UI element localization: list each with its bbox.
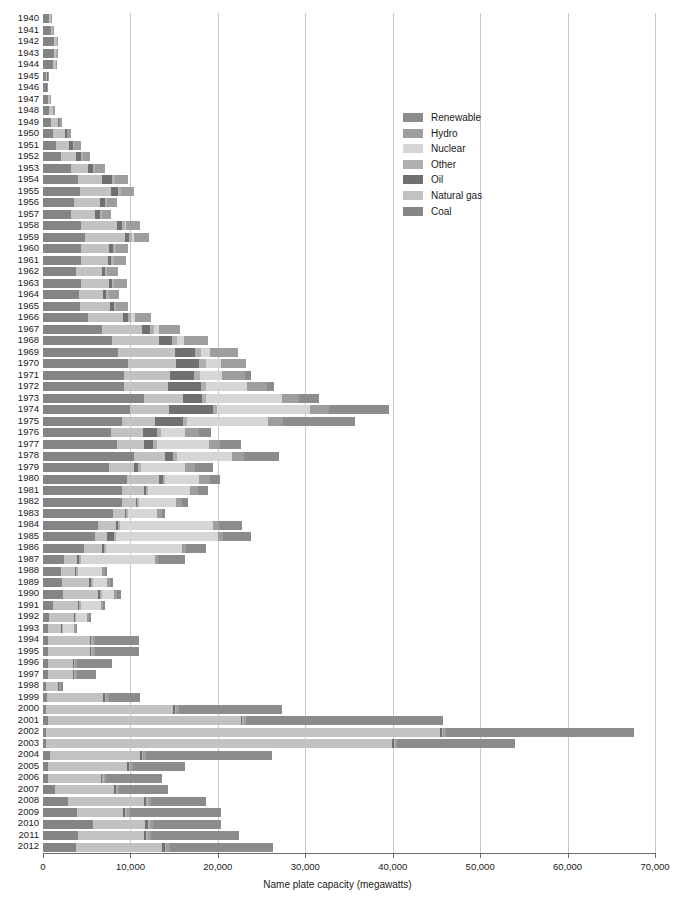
y-tick-label: 1949 <box>18 116 39 128</box>
bar-segment-natural-gas <box>111 428 142 437</box>
chart-row: 1958 <box>43 220 655 232</box>
bar-segment-oil <box>144 440 154 449</box>
bar-segment-oil <box>143 428 157 437</box>
stacked-bar <box>43 486 208 495</box>
bar-segment-oil <box>176 359 200 368</box>
x-tick-label: 30,000 <box>291 861 320 872</box>
stacked-bar <box>43 613 91 622</box>
bar-segment-nuclear <box>102 590 114 599</box>
y-tick-label: 1992 <box>18 610 39 622</box>
bar-segment-natural-gas <box>48 624 61 633</box>
chart-row: 1946 <box>43 82 655 94</box>
bar-segment-hydro <box>67 129 71 138</box>
bar-segment-coal <box>43 452 134 461</box>
bar-segment-nuclear <box>206 359 222 368</box>
chart-row: 1973 <box>43 393 655 405</box>
tick-mark-40000 <box>393 853 394 858</box>
y-tick-label: 2000 <box>18 702 39 714</box>
stacked-bar <box>43 313 151 322</box>
y-tick-label: 1959 <box>18 231 39 243</box>
bar-segment-natural-gas <box>77 808 122 817</box>
x-tick-label: 20,000 <box>203 861 232 872</box>
bar-segment-natural-gas <box>122 486 144 495</box>
chart-row: 2005 <box>43 761 655 773</box>
bar-segment-nuclear <box>206 382 246 391</box>
y-tick-label: 2001 <box>18 714 39 726</box>
bar-segment-coal <box>43 244 81 253</box>
stacked-bar <box>43 831 239 840</box>
bar-segment-renewable <box>245 371 251 380</box>
bar-segment-natural-gas <box>81 244 109 253</box>
legend-label: Natural gas <box>431 190 482 201</box>
bar-segment-nuclear <box>116 532 218 541</box>
bar-segment-hydro <box>95 164 105 173</box>
bar-segment-natural-gas <box>130 405 169 414</box>
stacked-bar <box>43 739 515 748</box>
y-tick-label: 1977 <box>18 438 39 450</box>
bar-segment-coal <box>43 843 76 852</box>
stacked-bar <box>43 440 241 449</box>
stacked-bar <box>43 567 107 576</box>
bar-segment-coal <box>43 152 61 161</box>
y-tick-label: 1989 <box>18 576 39 588</box>
bar-segment-coal <box>43 129 53 138</box>
bar-segment-hydro <box>53 106 54 115</box>
chart-row: 1989 <box>43 577 655 589</box>
stacked-bar <box>43 405 389 414</box>
y-tick-label: 1978 <box>18 449 39 461</box>
chart-row: 1970 <box>43 358 655 370</box>
bar-segment-coal <box>43 49 54 58</box>
stacked-bar <box>43 37 58 46</box>
chart-row: 2004 <box>43 749 655 761</box>
bar-segment-hydro <box>57 37 58 46</box>
tick-mark-70000 <box>655 853 656 858</box>
chart-row: 1972 <box>43 381 655 393</box>
y-tick-label: 1948 <box>18 104 39 116</box>
bar-segment-coal <box>43 141 56 150</box>
bar-segment-coal <box>43 555 64 564</box>
bar-segment-coal <box>43 359 128 368</box>
bar-segment-nuclear <box>148 486 190 495</box>
bar-segment-coal <box>43 498 122 507</box>
bar-segment-renewable <box>95 636 139 645</box>
y-tick-label: 1963 <box>18 277 39 289</box>
bar-segment-hydro <box>107 267 117 276</box>
bar-segment-renewable <box>158 555 185 564</box>
bar-segment-natural-gas <box>81 279 109 288</box>
stacked-bar <box>43 302 128 311</box>
bar-segment-nuclear <box>206 394 281 403</box>
y-tick-label: 1950 <box>18 127 39 139</box>
bar-segment-nuclear <box>106 544 182 553</box>
bar-segment-renewable <box>119 785 168 794</box>
bar-segment-natural-gas <box>48 670 72 679</box>
bar-segment-hydro <box>184 336 208 345</box>
legend-label: Renewable <box>431 112 481 123</box>
y-tick-label: 1964 <box>18 288 39 300</box>
bar-segment-coal <box>43 808 77 817</box>
stacked-bar <box>43 267 118 276</box>
chart-row: 1945 <box>43 71 655 83</box>
stacked-bar <box>43 705 282 714</box>
bar-segment-nuclear <box>157 440 209 449</box>
chart-row: 1986 <box>43 542 655 554</box>
bar-segment-coal <box>43 751 50 760</box>
plot-area: 1940194119421943194419451946194719481949… <box>43 13 655 853</box>
bar-segment-natural-gas <box>48 762 127 771</box>
chart-row: 1964 <box>43 289 655 301</box>
stacked-bar <box>43 544 206 553</box>
chart-row: 1987 <box>43 554 655 566</box>
chart-row: 1949 <box>43 117 655 129</box>
bar-segment-nuclear <box>120 521 213 530</box>
y-tick-label: 1997 <box>18 668 39 680</box>
stacked-bar <box>43 590 121 599</box>
chart-row: 1998 <box>43 680 655 692</box>
chart-row: 1996 <box>43 657 655 669</box>
y-tick-label: 2006 <box>18 771 39 783</box>
bar-segment-renewable <box>77 659 112 668</box>
chart-row: 1980 <box>43 473 655 485</box>
legend-label: Other <box>431 159 456 170</box>
bar-segment-natural-gas <box>51 118 58 127</box>
bar-segment-oil <box>168 382 201 391</box>
bar-segment-hydro <box>221 359 245 368</box>
chart-row: 1960 <box>43 243 655 255</box>
